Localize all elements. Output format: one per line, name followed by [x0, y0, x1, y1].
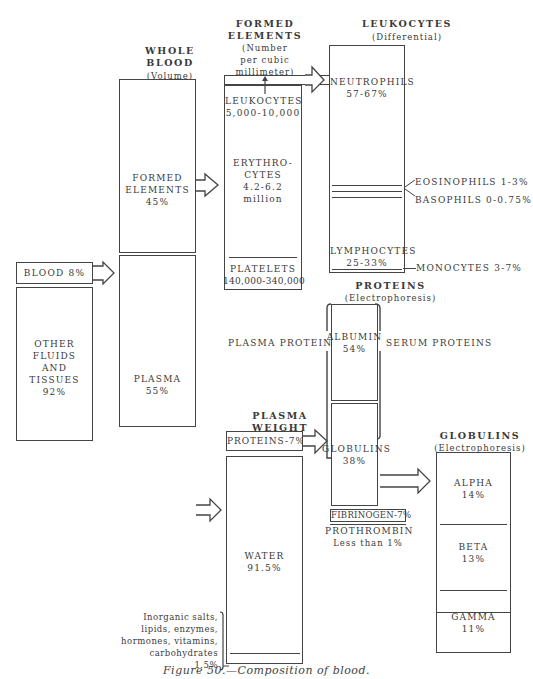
proteins-electrophoresis-arrow-icon [303, 430, 327, 453]
blood-to-plasma-arrow-icon [93, 262, 114, 284]
flow-arrows [0, 0, 533, 679]
formed-elements-arrow-icon [196, 174, 218, 196]
leukocytes-differential-arrow-icon [305, 67, 324, 92]
globulin-fractions-arrow-icon [380, 469, 430, 493]
figure-caption: Figure 50.—Composition of blood. [0, 664, 533, 677]
plasma-weight-arrow-icon [196, 499, 221, 521]
